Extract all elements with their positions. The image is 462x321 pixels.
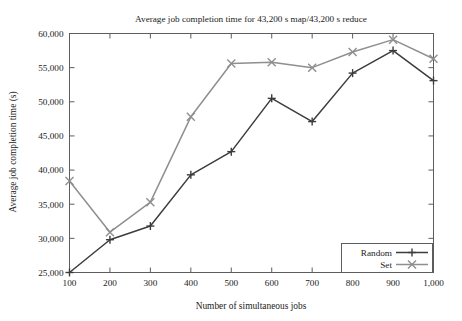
y-tick-label: 25,000 (38, 268, 64, 278)
data-point-marker (146, 198, 154, 206)
data-point-marker (349, 48, 357, 56)
chart-legend: Random Set (342, 244, 433, 273)
x-tick-label: 100 (63, 278, 77, 288)
plot-frame (70, 34, 434, 273)
legend-item-set-label: Set (380, 260, 392, 270)
data-point-marker (187, 113, 195, 121)
y-tick-label: 60,000 (38, 29, 64, 39)
x-tick-label: 1,000 (423, 278, 444, 288)
x-axis-title: Number of simultaneous jobs (196, 301, 307, 311)
y-axis-ticks: 25,00030,00035,00040,00045,00050,00055,0… (38, 29, 433, 278)
y-tick-label: 55,000 (38, 63, 64, 73)
x-tick-label: 600 (265, 278, 279, 288)
line-chart: Average job completion time for 43,200 s… (0, 0, 462, 321)
y-tick-label: 30,000 (38, 234, 64, 244)
data-point-marker (106, 228, 114, 236)
x-tick-label: 900 (386, 278, 400, 288)
legend-item-random-label: Random (361, 248, 392, 258)
y-tick-label: 45,000 (38, 131, 64, 141)
x-tick-label: 700 (305, 278, 319, 288)
x-tick-label: 400 (184, 278, 198, 288)
y-tick-label: 35,000 (38, 200, 64, 210)
x-tick-label: 200 (103, 278, 117, 288)
x-tick-label: 800 (346, 278, 360, 288)
x-tick-label: 300 (143, 278, 157, 288)
series-set (66, 36, 438, 237)
x-tick-label: 500 (224, 278, 238, 288)
y-axis-title: Average job completion time (s) (8, 91, 19, 212)
chart-figure: Average job completion time for 43,200 s… (0, 0, 462, 321)
series-random (66, 47, 438, 277)
y-tick-label: 40,000 (38, 165, 64, 175)
chart-title: Average job completion time for 43,200 s… (135, 14, 367, 24)
y-tick-label: 50,000 (38, 97, 64, 107)
series-layer (66, 36, 438, 277)
